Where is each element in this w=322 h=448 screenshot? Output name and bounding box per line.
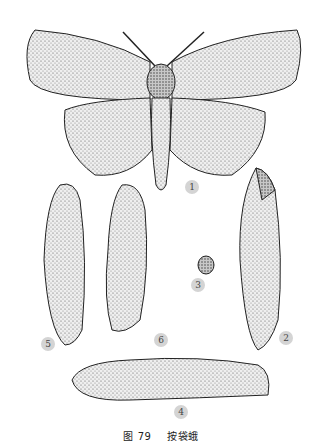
moth-illustration	[0, 0, 322, 420]
egg	[198, 256, 214, 274]
female-pupa	[44, 184, 85, 345]
larva	[72, 358, 269, 400]
label-6: 6	[154, 333, 168, 347]
male-pupa	[106, 185, 146, 332]
adult-moth	[27, 30, 301, 190]
label-5: 5	[41, 337, 55, 351]
bag-case	[240, 168, 281, 350]
caption-title: 按袋蛾	[167, 431, 199, 442]
caption-number: 图 79	[123, 431, 151, 442]
label-3: 3	[191, 278, 205, 292]
label-2: 2	[279, 331, 293, 345]
figure-caption: 图 79 按袋蛾	[0, 428, 322, 443]
label-1: 1	[185, 180, 199, 194]
label-4: 4	[174, 405, 188, 419]
